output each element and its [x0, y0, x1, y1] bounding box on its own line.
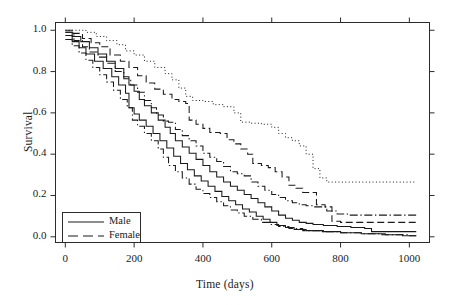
x-tick-label: 800	[311, 252, 371, 264]
y-tick-label: 1.0	[17, 22, 47, 34]
x-tick-label: 1000	[379, 252, 439, 264]
x-tick-label: 200	[104, 252, 164, 264]
x-axis-label: Time (days)	[196, 278, 254, 290]
y-tick-label: 0.2	[17, 187, 47, 199]
y-tick-label: 0.0	[17, 229, 47, 241]
x-tick-label: 0	[35, 252, 95, 264]
legend-label-male: Male	[109, 215, 131, 226]
y-tick-label: 0.8	[17, 64, 47, 76]
legend-label-female: Female	[109, 229, 140, 240]
x-tick-label: 600	[242, 252, 302, 264]
survival-chart-figure: 0.00.20.40.60.81.0 02004006008001000 Sur…	[0, 0, 450, 305]
x-tick-label: 400	[173, 252, 233, 264]
legend-entry-male: Male	[63, 214, 142, 229]
legend: Male Female	[62, 212, 141, 243]
y-axis-label: Survival	[22, 111, 34, 152]
legend-entry-female: Female	[63, 228, 142, 243]
